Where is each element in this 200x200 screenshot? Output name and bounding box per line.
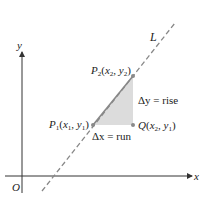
rise-label: Δy = rise [138, 94, 178, 106]
point-p1 [91, 123, 95, 127]
line-label: L [149, 30, 157, 44]
slope-diagram: y x O L P2(x2, y2) P1(x1, y1) Q(x2, y1) … [0, 0, 200, 200]
run-label: Δx = run [92, 130, 131, 142]
p2-label: P2(x2, y2) [90, 64, 131, 78]
point-p2 [131, 74, 135, 78]
p1-label: P1(x1, y1) [48, 118, 89, 132]
origin-label: O [12, 181, 20, 193]
y-axis-label: y [16, 39, 22, 51]
point-q [131, 123, 135, 127]
x-axis-label: x [193, 170, 199, 182]
diagram-canvas: y x O L P2(x2, y2) P1(x1, y1) Q(x2, y1) … [0, 0, 200, 200]
q-label: Q(x2, y1) [138, 119, 176, 133]
